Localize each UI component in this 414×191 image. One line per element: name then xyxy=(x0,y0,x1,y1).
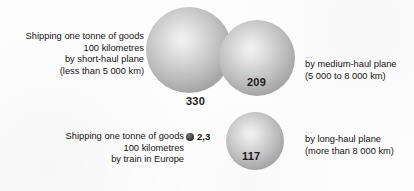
leader-dots-icon: ... xyxy=(305,127,394,134)
caption-line: (5 000 to 8 000 km) xyxy=(305,71,396,83)
caption-medium-haul: ... by medium-haul plane (5 000 to 8 000… xyxy=(305,52,396,82)
bubble-value-medium-haul: 209 xyxy=(247,76,266,88)
bubble-train-icon xyxy=(186,133,194,141)
train-marker: 2,3 xyxy=(186,131,210,142)
leader-dots-icon: ... xyxy=(305,52,396,59)
caption-train: Shipping one tonne of goods 100 kilometr… xyxy=(36,131,184,166)
caption-line: by long-haul plane xyxy=(305,134,394,146)
proportional-circle-chart: 330 209 117 Shipping one tonne of goods … xyxy=(0,0,414,191)
caption-line: (more than 8 000 km) xyxy=(305,146,394,158)
caption-line: Shipping one tonne of goods xyxy=(36,131,184,143)
caption-long-haul: ... by long-haul plane (more than 8 000 … xyxy=(305,127,394,157)
caption-short-haul: Shipping one tonne of goods 100 kilometr… xyxy=(8,31,144,77)
caption-line: by short-haul plane xyxy=(8,54,144,66)
caption-line: by medium-haul plane xyxy=(305,59,396,71)
caption-line: by train in Europe xyxy=(36,154,184,166)
bubble-value-long-haul: 117 xyxy=(242,150,260,162)
bubble-value-train: 2,3 xyxy=(197,131,210,142)
caption-line: 100 kilometres xyxy=(36,143,184,155)
caption-line: 100 kilometres xyxy=(8,43,144,55)
caption-line: Shipping one tonne of goods xyxy=(8,31,144,43)
caption-line: (less than 5 000 km) xyxy=(8,66,144,78)
bubble-value-short-haul: 330 xyxy=(186,95,205,107)
